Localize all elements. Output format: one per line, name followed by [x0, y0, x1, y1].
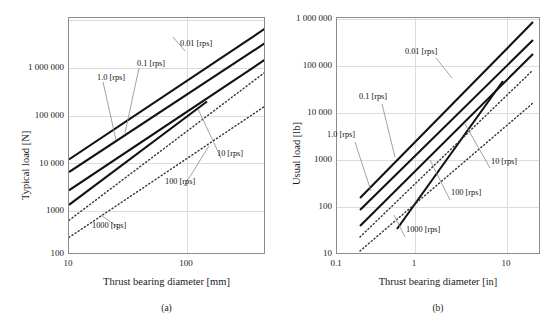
curve-label-100-rps: 100 [rps] — [165, 178, 195, 186]
subcaption-b: (b) — [336, 303, 540, 313]
ytick-label: 100 — [280, 202, 332, 211]
curve-label-1000-rps: 1000 [rps] — [92, 222, 126, 230]
ytick-label: 100 000 — [0, 111, 64, 120]
ytick-label: 100 000 — [280, 61, 332, 70]
xtick-label: 100 — [171, 259, 201, 268]
curve-label-1000-rps: 1000 [rps] — [406, 226, 440, 234]
curve-label-0_1-rps: 0.1 [rps] — [137, 60, 165, 68]
curve-label-100-rps: 100 [rps] — [451, 189, 481, 197]
leader-line-0_1-rps — [382, 104, 395, 157]
ytick-label: 1 000 000 — [0, 63, 64, 72]
plot-area-b — [336, 17, 540, 254]
xtick-label: 10 — [53, 259, 83, 268]
leader-line-1_0-rps — [355, 142, 371, 191]
curve-label-10-rps: 10 [rps] — [217, 150, 243, 158]
chart-panel-b: 0.01 [rps] 0.1 [rps] 1.0 [rps] 10 [rps] … — [280, 0, 557, 324]
leader-line-1000-rps — [394, 215, 405, 237]
curve-0_01-rps — [69, 28, 264, 160]
curve-label-0_1-rps: 0.1 [rps] — [359, 93, 387, 101]
ytick-label: 1000 — [280, 155, 332, 164]
y-axis-title: Typical load [N] — [20, 131, 31, 200]
x-axis-title: Thrust bearing diameter [in] — [336, 276, 540, 287]
curve-label-0_01-rps: 0.01 [rps] — [180, 40, 212, 48]
plot-area-a — [68, 17, 265, 254]
ytick-label: 100 — [0, 249, 64, 258]
curves-b — [337, 18, 539, 253]
figure-container: 0.01 [rps] 0.1 [rps] 1.0 [rps] 10 [rps] … — [0, 0, 557, 324]
ytick-label: 1000 — [0, 206, 64, 215]
ytick-label: 1 000 000 — [280, 14, 332, 23]
curve-label-1_0-rps: 1.0 [rps] — [97, 74, 125, 82]
leader-line-0_01-rps — [436, 58, 452, 78]
y-axis-title: Usual load [lb] — [291, 122, 302, 185]
curve-10-rps — [397, 81, 503, 229]
x-axis-title: Thrust bearing diameter [mm] — [68, 276, 265, 287]
curve-label-1_0-rps: 1.0 [rps] — [327, 131, 355, 139]
curve-10-rps — [69, 102, 207, 205]
curve-0_01-rps — [360, 22, 533, 198]
leader-line-10-rps — [465, 124, 490, 168]
ytick-label: 10 — [280, 249, 332, 258]
curve-label-0_01-rps: 0.01 [rps] — [405, 48, 437, 56]
xtick-label: 10 — [491, 259, 521, 268]
chart-panel-a: 0.01 [rps] 0.1 [rps] 1.0 [rps] 10 [rps] … — [0, 0, 280, 324]
curve-1_0-rps — [360, 54, 533, 226]
xtick-label: 1 — [399, 259, 429, 268]
leader-line-0_1-rps — [125, 68, 139, 133]
curves-a — [69, 18, 264, 253]
curve-label-10-rps: 10 [rps] — [491, 158, 517, 166]
xtick-label: 0.1 — [321, 259, 351, 268]
ytick-label: 10 000 — [0, 159, 64, 168]
ytick-label: 10 000 — [280, 108, 332, 117]
subcaption-a: (a) — [68, 303, 265, 313]
